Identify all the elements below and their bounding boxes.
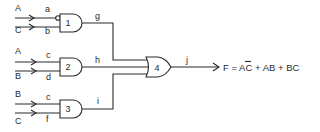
wire-label-d: d <box>46 72 51 82</box>
wire-label-f: f <box>46 114 49 124</box>
and-gate-1-shape <box>60 14 82 32</box>
output-expression: F = AC + AB + BC <box>223 62 299 74</box>
wire-label-c: c <box>46 92 51 102</box>
gate-2-and: A B c d 2 h <box>15 46 148 82</box>
expr-prefix: F = <box>223 62 239 73</box>
input-label-B: B <box>15 71 21 81</box>
wire-i <box>82 74 147 109</box>
wire-label-c: c <box>46 50 51 60</box>
svg-text:F = AC + AB + BC: F = AC + AB + BC <box>223 62 299 73</box>
input-label-A: A <box>15 3 21 13</box>
gate-number-4: 4 <box>154 63 159 73</box>
input-label-B: B <box>15 89 21 99</box>
logic-circuit-diagram: A C a b 1 g A B c d 2 h B C c f <box>0 0 320 132</box>
gate-3-and: B C c f 3 i <box>15 74 147 126</box>
gate-4-or: 4 j <box>146 55 219 77</box>
gate-number-1: 1 <box>65 18 70 28</box>
wire-g <box>82 23 147 60</box>
gate-1-and: A C a b 1 g <box>15 3 147 60</box>
wire-label-j: j <box>185 55 188 65</box>
wire-label-h: h <box>95 55 100 65</box>
wire-label-g: g <box>95 11 100 21</box>
expr-rest: + AB + BC <box>252 62 299 73</box>
and-gate-3-shape <box>60 100 82 118</box>
input-label-A: A <box>15 46 21 56</box>
wire-label-a: a <box>45 4 50 14</box>
wire-label-i: i <box>97 96 99 106</box>
and-gate-2-shape <box>60 58 82 76</box>
gate-number-3: 3 <box>65 104 70 114</box>
input-label-C: C <box>15 116 22 126</box>
gate-number-2: 2 <box>65 62 70 72</box>
